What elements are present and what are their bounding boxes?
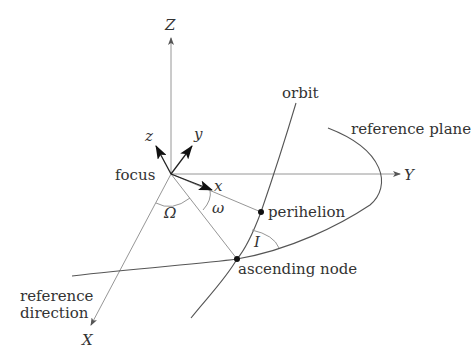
y-vector: [171, 146, 192, 174]
angle-label-omega: ω: [212, 199, 224, 217]
reference-direction-label-line2: direction: [20, 304, 89, 322]
axis-label-Y: Y: [404, 166, 416, 184]
x-axis-reference: [91, 174, 171, 325]
angle-label-I: I: [253, 233, 261, 251]
focus-label: focus: [115, 166, 155, 184]
orbital-elements-diagram: Z Y X z y x focus orbit reference plane …: [0, 0, 473, 358]
reference-direction-label-line1: reference: [20, 287, 94, 305]
vector-label-x: x: [214, 177, 223, 195]
reference-plane-label: reference plane: [351, 120, 471, 138]
perihelion-label: perihelion: [268, 203, 346, 221]
axis-label-Z: Z: [164, 16, 176, 34]
omega-small-arc: [203, 190, 210, 210]
vector-label-z: z: [144, 127, 153, 145]
z-vector: [156, 146, 171, 174]
reference-plane-curve: [72, 128, 382, 276]
orbit-label: orbit: [282, 84, 319, 102]
axis-label-X: X: [81, 331, 94, 349]
vector-label-y: y: [193, 125, 203, 143]
ascending-node-label: ascending node: [238, 260, 357, 278]
angle-label-Omega: Ω: [163, 204, 176, 222]
perihelion-point: [258, 209, 264, 215]
